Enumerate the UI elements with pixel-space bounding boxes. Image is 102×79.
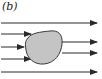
- flow-diagram: [0, 0, 102, 79]
- obstacle-shape: [25, 31, 62, 64]
